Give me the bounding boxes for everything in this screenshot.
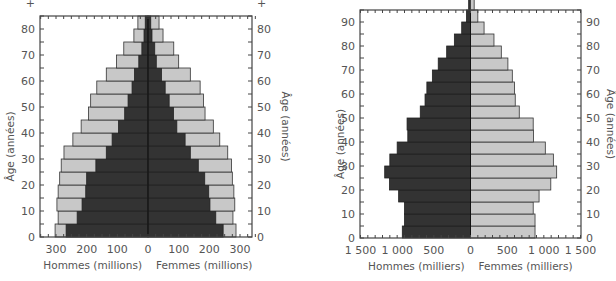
female-bar-45-49 xyxy=(148,107,173,120)
x-tick-label: 100 xyxy=(107,243,128,256)
female-bar-95+ xyxy=(471,0,475,10)
y-tick-label-right: 60 xyxy=(257,75,271,88)
y-tick-label-right: 60 xyxy=(586,88,600,101)
female-bar-50-54 xyxy=(148,94,169,107)
female-bar-55-59 xyxy=(471,94,516,106)
female-bar-35-39 xyxy=(148,133,185,146)
male-bar-65-69 xyxy=(432,70,470,82)
y-tick-label-right: + xyxy=(257,0,266,10)
x-tick-label: 300 xyxy=(230,243,251,256)
y-tick-label-right: 70 xyxy=(257,49,271,62)
male-bar-10-14 xyxy=(82,198,148,211)
male-bar-25-29 xyxy=(385,166,471,178)
x-tick-label: 200 xyxy=(76,243,97,256)
y-tick-label-left: 70 xyxy=(341,64,355,77)
male-bar-55-59 xyxy=(425,94,470,106)
y-tick-label-right: 50 xyxy=(586,112,600,125)
female-bar-5-9 xyxy=(471,214,536,226)
female-bar-25-29 xyxy=(148,159,198,172)
y-tick-label-right: 20 xyxy=(586,184,600,197)
female-bar-65-69 xyxy=(148,55,156,68)
y-tick-label-left: 60 xyxy=(341,88,355,101)
male-bar-5-9 xyxy=(77,211,148,224)
female-bar-15-19 xyxy=(148,185,209,198)
male-bar-50-54 xyxy=(420,106,470,118)
x-tick-label: 1 500 xyxy=(565,244,597,257)
y-tick-label-left: 60 xyxy=(21,75,35,88)
x-tick-label: 100 xyxy=(168,243,189,256)
male-bar-65-69 xyxy=(139,55,148,68)
male-bar-45-49 xyxy=(407,118,470,130)
male-bar-0-4 xyxy=(402,226,470,238)
male-bar-15-19 xyxy=(399,190,471,202)
female-bar-0-4 xyxy=(148,224,223,237)
female-bar-40-44 xyxy=(148,120,177,133)
x-tick-label: 1 500 xyxy=(345,244,377,257)
x-axis-title-women: Femmes (millions) xyxy=(156,259,252,271)
male-bar-45-49 xyxy=(125,107,148,120)
male-bar-60-64 xyxy=(135,68,148,81)
x-axis-title-women: Femmes (milliers) xyxy=(479,260,573,272)
y-tick-label-right: 20 xyxy=(257,179,271,192)
female-bar-10-14 xyxy=(471,202,534,214)
y-tick-label-right: 30 xyxy=(586,160,600,173)
female-bar-70-74 xyxy=(148,42,155,55)
male-bar-85-89 xyxy=(462,22,471,34)
y-tick-label-right: 40 xyxy=(586,136,600,149)
x-axis-title-men: Hommes (milliers) xyxy=(368,260,464,272)
x-tick-label: 0 xyxy=(467,244,474,257)
female-bar-35-39 xyxy=(471,142,546,154)
y-tick-label-left: + xyxy=(26,0,35,10)
female-bar-10-14 xyxy=(148,198,210,211)
male-bar-90-94 xyxy=(466,10,470,22)
male-bar-40-44 xyxy=(119,120,148,133)
male-bar-75-79 xyxy=(447,46,471,58)
male-bar-50-54 xyxy=(128,94,148,107)
female-bar-80-84 xyxy=(471,34,494,46)
male-bar-70-74 xyxy=(142,42,148,55)
y-tick-label-right: 30 xyxy=(257,153,271,166)
y-tick-label-left: 30 xyxy=(21,153,35,166)
male-bar-30-34 xyxy=(390,154,471,166)
x-tick-label: 0 xyxy=(145,243,152,256)
male-bar-60-64 xyxy=(427,82,471,94)
y-tick-label-left: 80 xyxy=(21,23,35,36)
female-bar-65-69 xyxy=(471,70,513,82)
y-tick-label-right: 10 xyxy=(257,205,271,218)
y-tick-label-left: 0 xyxy=(28,231,35,244)
female-bar-60-64 xyxy=(471,82,515,94)
y-tick-label-left: 80 xyxy=(341,40,355,53)
y-tick-label-left: 50 xyxy=(21,101,35,114)
y-tick-label-left: 70 xyxy=(21,49,35,62)
female-bar-30-34 xyxy=(148,146,190,159)
female-bar-75-79 xyxy=(148,29,152,42)
x-tick-label: 500 xyxy=(423,244,444,257)
female-bar-15-19 xyxy=(471,190,540,202)
x-tick-label: 300 xyxy=(46,243,67,256)
y-tick-label-left: 20 xyxy=(21,179,35,192)
female-bar-20-24 xyxy=(148,172,205,185)
y-tick-label-right: 90 xyxy=(586,16,600,29)
y-axis-title-left: Âge (années) xyxy=(334,109,346,179)
y-axis-title-right: Âge (années) xyxy=(280,92,292,162)
world-population-pyramid: 0010102020303040405050606070708080++3002… xyxy=(4,0,292,271)
male-bar-35-39 xyxy=(112,133,148,146)
male-bar-15-19 xyxy=(86,185,148,198)
national-population-pyramid: 001010202030304040505060607070808090901 … xyxy=(334,0,616,272)
female-bar-20-24 xyxy=(471,178,551,190)
male-bar-80-84 xyxy=(454,34,470,46)
y-tick-label-left: 90 xyxy=(341,16,355,29)
y-axis-title-left: Âge (années) xyxy=(4,112,16,182)
male-bar-35-39 xyxy=(397,142,470,154)
x-axis-title-men: Hommes (millions) xyxy=(43,259,142,271)
female-bar-60-64 xyxy=(148,68,161,81)
female-bar-0-4 xyxy=(471,226,536,238)
x-tick-label: 500 xyxy=(497,244,518,257)
male-bar-55-59 xyxy=(132,81,148,94)
male-bar-40-44 xyxy=(408,130,471,142)
population-pyramids: 0010102020303040405050606070708080++3002… xyxy=(0,0,616,281)
male-bar-20-24 xyxy=(389,178,470,190)
female-bar-5-9 xyxy=(148,211,216,224)
y-tick-label-right: 0 xyxy=(257,231,264,244)
male-bar-70-74 xyxy=(438,58,470,70)
